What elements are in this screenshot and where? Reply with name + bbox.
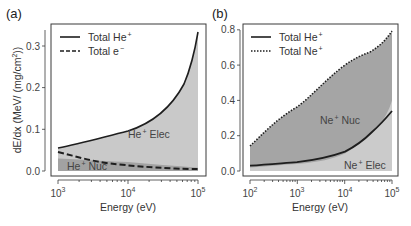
panel-b-xtick-3: 105 [384,186,399,199]
panel-b-ytick-2: 0.4 [221,95,235,106]
he-elec-area [58,32,198,171]
panel-b-x-ticks [250,180,392,184]
panel-a-ytick-0: 0.0 [26,166,40,177]
panel-b-y-ticks [237,30,240,171]
he-elec-label: He+ Elec [128,128,170,140]
panel-b-xtick-1: 103 [289,186,304,199]
panel-a-label: (a) [6,6,22,21]
panel-a-y-ticks [42,46,45,171]
panel-a-x-label: Energy (eV) [100,201,156,213]
panel-b-ytick-3: 0.6 [221,60,235,71]
panel-b-ytick-1: 0.2 [221,130,235,141]
y-axis-label: dE/dx (MeV/ (mg/cm2)) [11,47,23,154]
ne-nuc-label: Ne+ Nuc [320,114,360,126]
panel-b-ytick-4: 0.8 [221,24,235,35]
panel-b-ytick-0: 0.0 [221,166,235,177]
panel-a-x-ticks [58,180,198,184]
legend-total-e: Total e− [88,45,124,57]
panel-b-legend: Total He+ Total Ne+ [251,31,323,57]
panel-b-xtick-2: 104 [337,186,352,199]
ne-elec-label: Ne+ Elec [344,159,386,171]
legend-total-he-b: Total He+ [279,31,323,43]
legend-total-he: Total He+ [88,31,132,43]
panel-a-xtick-0: 103 [50,186,65,199]
panel-a-legend: Total He+ Total e− [60,31,132,57]
panel-b: (b) 0.0 0.2 0.4 0.6 0.8 [212,6,400,213]
panel-a-ytick-1: 0.1 [26,124,40,135]
panel-a-ytick-3: 0.3 [26,41,40,52]
panel-a-xtick-2: 105 [190,186,205,199]
panel-a-ytick-2: 0.2 [26,82,40,93]
panel-b-label: (b) [212,6,228,21]
panel-a-xtick-1: 104 [120,186,135,199]
panel-b-xtick-0: 102 [242,186,257,199]
he-nuc-label: He+ Nuc [67,160,107,172]
legend-total-ne: Total Ne+ [279,45,323,57]
panel-a: (a) 0.0 0.1 0.2 0.3 [6,6,206,213]
panel-b-x-label: Energy (eV) [292,201,348,213]
figure: (a) 0.0 0.1 0.2 0.3 [0,0,411,226]
